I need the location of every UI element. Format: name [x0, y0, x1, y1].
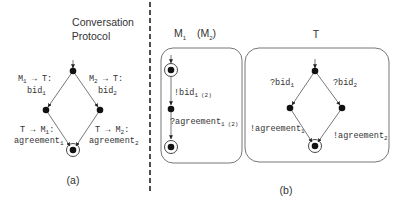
final-state-node-icon	[312, 143, 319, 150]
start-state-node-icon	[168, 67, 175, 74]
edge-recv-bid1	[292, 71, 315, 105]
panel-a-caption: (a)	[67, 174, 80, 186]
svg-text:bid2: bid2	[98, 86, 117, 97]
edge-recv-bid2	[315, 71, 340, 105]
svg-text:T → M1:: T → M1:	[20, 125, 54, 136]
machine-m-label: M1	[174, 27, 187, 41]
diagram-canvas: Conversation Protocol M1 → T: bid1 M2 → …	[0, 0, 410, 206]
state-node-icon	[97, 107, 104, 114]
label-recv-bid2: ?bid2	[333, 78, 357, 89]
machine-t: T ?bid1 ?bid2 !agreement1 !agreement2	[245, 28, 389, 162]
svg-text:bid1: bid1	[27, 86, 46, 97]
state-node-icon	[168, 106, 175, 113]
panel-a: Conversation Protocol M1 → T: bid1 M2 → …	[14, 16, 139, 186]
final-state-node-icon	[70, 147, 77, 154]
final-state-node-icon	[168, 144, 175, 151]
state-node-icon	[70, 68, 77, 75]
label-top-left: M1 → T: bid1	[18, 74, 52, 97]
svg-text:agreement1: agreement1	[14, 136, 64, 147]
label-bottom-right: T → M2: agreement2	[89, 125, 139, 147]
label-bottom-left: T → M1: agreement1	[14, 125, 64, 147]
edge-top-right	[73, 71, 98, 107]
svg-text:M1 → T:: M1 → T:	[18, 74, 52, 85]
machine-m: M1 (M2) !bid1(2) ?agreement1(2)	[161, 27, 242, 163]
label-top-right: M2 → T: bid2	[89, 74, 123, 97]
state-node-icon	[43, 107, 50, 114]
panel-b-caption: (b)	[280, 184, 293, 196]
svg-text:T → M2:: T → M2:	[95, 125, 129, 136]
label-send-agreement2: !agreement2	[333, 131, 388, 142]
machine-t-label: T	[313, 28, 320, 40]
state-node-icon	[339, 105, 346, 112]
machine-m-alt-label: (M2)	[197, 27, 216, 41]
label-recv-bid1: ?bid1	[270, 78, 294, 89]
state-node-icon	[312, 68, 319, 75]
panel-b: M1 (M2) !bid1(2) ?agreement1(2) T	[161, 27, 389, 196]
panel-a-title-line2: Protocol	[72, 30, 111, 42]
state-node-icon	[287, 105, 294, 112]
panel-a-title-line1: Conversation	[72, 16, 134, 28]
svg-text:M2 → T:: M2 → T:	[89, 74, 123, 85]
svg-text:agreement2: agreement2	[89, 136, 139, 147]
label-recv-agreement: ?agreement1(2)	[170, 117, 238, 128]
label-send-agreement1: !agreement1	[250, 124, 305, 135]
label-send-bid: !bid1(2)	[174, 88, 212, 99]
